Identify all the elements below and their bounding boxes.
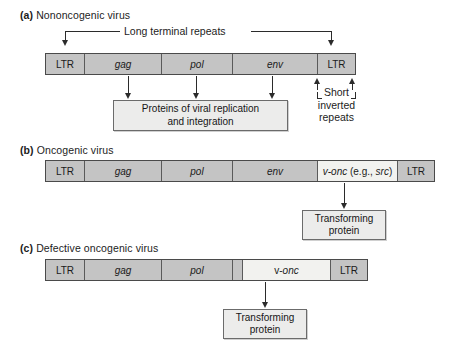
segment-c-ltr-right[interactable]: LTR	[331, 260, 367, 280]
short-repeat-corner-right	[351, 92, 356, 99]
genome-bar-b: LTR gag pol env v-onc (e.g., src) LTR	[45, 160, 435, 182]
ltr-bracket-line-right	[251, 31, 331, 32]
genome-bar-c: LTR gag pol v-onc LTR	[45, 259, 368, 281]
ltr-bracket-label: Long terminal repeats	[120, 25, 230, 37]
panel-a-heading: (a) Nononcogenic virus	[20, 9, 130, 21]
proteins-box-line1: Proteins of viral replication	[142, 103, 259, 114]
panel-b-title: Oncogenic virus	[37, 144, 114, 156]
panel-a-title: Nononcogenic virus	[36, 9, 130, 21]
segment-ltr-left[interactable]: LTR	[46, 54, 85, 74]
panel-b-tag: (b)	[20, 144, 34, 156]
short-inverted-repeats-label: Short inverted repeats	[303, 86, 370, 124]
short-repeat-line1: Short	[324, 86, 349, 99]
transforming-c-line2: protein	[250, 324, 281, 335]
pol-connector-arrow	[193, 93, 199, 99]
segment-b-vonc[interactable]: v-onc (e.g., src)	[318, 161, 398, 181]
segment-gag[interactable]: gag	[85, 54, 162, 74]
ltr-bracket-arrow-left	[62, 40, 68, 46]
transforming-protein-box-c: Transforming protein	[223, 309, 307, 339]
segment-b-pol[interactable]: pol	[162, 161, 233, 181]
segment-ltr-right[interactable]: LTR	[318, 54, 355, 74]
env-connector-arrow	[269, 93, 275, 99]
ltr-bracket-arrow-right	[328, 40, 334, 46]
vonc-c-connector-arrow	[262, 302, 268, 308]
segment-pol[interactable]: pol	[162, 54, 233, 74]
panel-a-tag: (a)	[20, 9, 33, 21]
panel-c-title: Defective oncogenic virus	[36, 242, 158, 254]
panel-c-tag: (c)	[20, 242, 33, 254]
panel-c-heading: (c) Defective oncogenic virus	[20, 242, 158, 254]
vonc-c-connector-line	[265, 282, 266, 304]
segment-c-spacer	[233, 260, 243, 280]
gag-connector-arrow	[125, 93, 131, 99]
segment-b-ltr-right[interactable]: LTR	[398, 161, 434, 181]
segment-b-env[interactable]: env	[233, 161, 318, 181]
transforming-b-line1: Transforming	[315, 213, 374, 224]
segment-b-ltr-left[interactable]: LTR	[46, 161, 85, 181]
segment-b-gag[interactable]: gag	[85, 161, 162, 181]
segment-c-ltr-left[interactable]: LTR	[46, 260, 85, 280]
genome-bar-a: LTR gag pol env LTR	[45, 53, 356, 75]
vonc-b-connector-line	[344, 183, 345, 205]
panel-b-heading: (b) Oncogenic virus	[20, 144, 114, 156]
segment-c-vonc[interactable]: v-onc	[243, 260, 331, 280]
vonc-b-connector-arrow	[341, 203, 347, 209]
short-repeat-line2: inverted	[303, 99, 370, 112]
short-repeat-corner-left	[317, 92, 322, 99]
short-repeat-line3: repeats	[303, 111, 370, 124]
segment-c-gag[interactable]: gag	[85, 260, 162, 280]
ltr-bracket-line-left	[65, 31, 120, 32]
proteins-output-box: Proteins of viral replication and integr…	[113, 100, 288, 131]
segment-env[interactable]: env	[233, 54, 318, 74]
proteins-box-line2: and integration	[167, 116, 233, 127]
transforming-protein-box-b: Transforming protein	[302, 210, 386, 240]
transforming-c-line1: Transforming	[236, 312, 295, 323]
transforming-b-line2: protein	[329, 225, 360, 236]
segment-c-pol[interactable]: pol	[162, 260, 233, 280]
